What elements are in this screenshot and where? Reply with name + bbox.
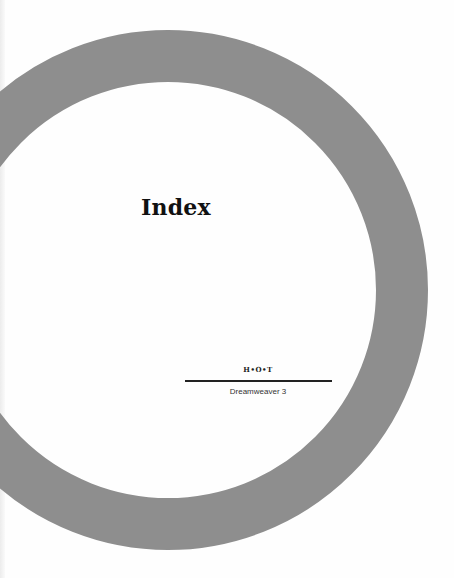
series-mark: H•O•T bbox=[184, 365, 332, 374]
page-title: Index bbox=[141, 194, 211, 220]
divider-rule bbox=[185, 380, 332, 382]
book-page: Index H•O•T Dreamweaver 3 bbox=[0, 0, 454, 578]
book-title: Dreamweaver 3 bbox=[184, 387, 332, 396]
decorative-ring bbox=[0, 30, 428, 550]
